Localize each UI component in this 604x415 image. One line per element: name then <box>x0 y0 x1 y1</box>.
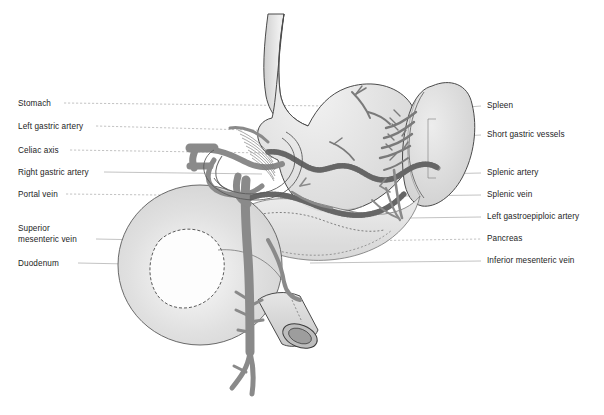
label-portal-vein: Portal vein <box>18 190 58 201</box>
anatomy-illustration <box>0 0 604 415</box>
label-spleen: Spleen <box>487 101 513 112</box>
label-splenic-vein: Splenic vein <box>487 190 532 201</box>
label-right-gastric-artery: Right gastric artery <box>18 168 89 179</box>
label-superior-mesenteric-vein-line1: Superior <box>18 224 50 235</box>
anatomy-diagram: Stomach Left gastric artery Celiac axis … <box>0 0 604 415</box>
label-inferior-mesenteric-vein: Inferior mesenteric vein <box>487 256 575 267</box>
label-stomach: Stomach <box>18 99 51 110</box>
spleen-body <box>402 83 474 207</box>
label-pancreas: Pancreas <box>487 234 522 245</box>
label-superior-mesenteric-vein-line2: mesenteric vein <box>18 235 77 246</box>
label-celiac-axis: Celiac axis <box>18 146 59 157</box>
stomach-body <box>258 14 418 212</box>
label-left-gastric-artery: Left gastric artery <box>18 122 83 133</box>
cut-bowel <box>258 293 321 353</box>
label-left-gastroepiploic-artery: Left gastroepiploic artery <box>487 212 579 223</box>
label-short-gastric-vessels: Short gastric vessels <box>487 130 565 141</box>
label-duodenum: Duodenum <box>18 259 59 270</box>
label-splenic-artery: Splenic artery <box>487 168 538 179</box>
